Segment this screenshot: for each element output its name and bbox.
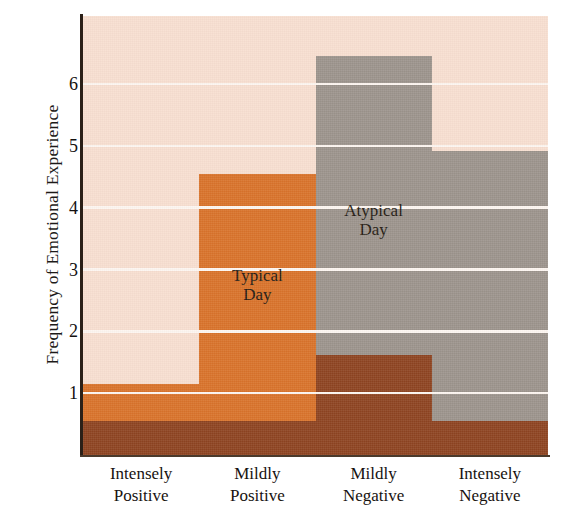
annotation-line: Day	[199, 285, 315, 304]
annotation-line: Typical	[199, 266, 315, 285]
y-tick-label-4: 4	[56, 199, 78, 217]
x-label-line: Intensely	[432, 463, 548, 485]
y-tick-label-5: 5	[56, 137, 78, 155]
x-label-line: Negative	[316, 485, 432, 507]
bar-overlap-intensely-positive	[83, 421, 199, 455]
gridline-2	[83, 330, 548, 332]
bar-overlap-mildly-negative	[316, 355, 432, 455]
bar-chart: Frequency of Emotional Experience 123456…	[0, 0, 572, 531]
y-tick-label-3: 3	[56, 261, 78, 279]
y-axis-line	[80, 14, 83, 457]
bar-typical-day-mildly-positive	[199, 174, 315, 455]
annotation-line: Atypical	[316, 201, 432, 220]
x-label-line: Mildly	[316, 463, 432, 485]
x-label-line: Positive	[199, 485, 315, 507]
plot-area: TypicalDayAtypicalDay	[83, 16, 548, 455]
x-axis-label-intensely-positive: IntenselyPositive	[83, 463, 199, 523]
y-tick-label-2: 2	[56, 322, 78, 340]
x-label-line: Negative	[432, 485, 548, 507]
x-label-line: Positive	[83, 485, 199, 507]
x-label-line: Intensely	[83, 463, 199, 485]
annotation-line: Day	[316, 220, 432, 239]
gridline-1	[83, 392, 548, 394]
gridline-5	[83, 145, 548, 147]
gridline-6	[83, 83, 548, 85]
x-axis-line	[80, 455, 550, 457]
x-axis-label-intensely-negative: IntenselyNegative	[432, 463, 548, 523]
y-tick-label-1: 1	[56, 384, 78, 402]
y-tick-label-6: 6	[56, 75, 78, 93]
series-annotation-atypical-day: AtypicalDay	[316, 201, 432, 239]
bar-overlap-mildly-positive	[199, 421, 315, 455]
y-axis-tick-labels: 123456	[54, 0, 78, 531]
bar-atypical-day-intensely-negative	[432, 151, 548, 455]
x-label-line: Mildly	[199, 463, 315, 485]
x-axis-label-mildly-negative: MildlyNegative	[316, 463, 432, 523]
series-annotation-typical-day: TypicalDay	[199, 266, 315, 304]
x-axis-tick-labels: IntenselyPositiveMildlyPositiveMildlyNeg…	[83, 463, 548, 523]
gridline-3	[83, 268, 548, 270]
bar-overlap-intensely-negative	[432, 421, 548, 455]
x-axis-label-mildly-positive: MildlyPositive	[199, 463, 315, 523]
